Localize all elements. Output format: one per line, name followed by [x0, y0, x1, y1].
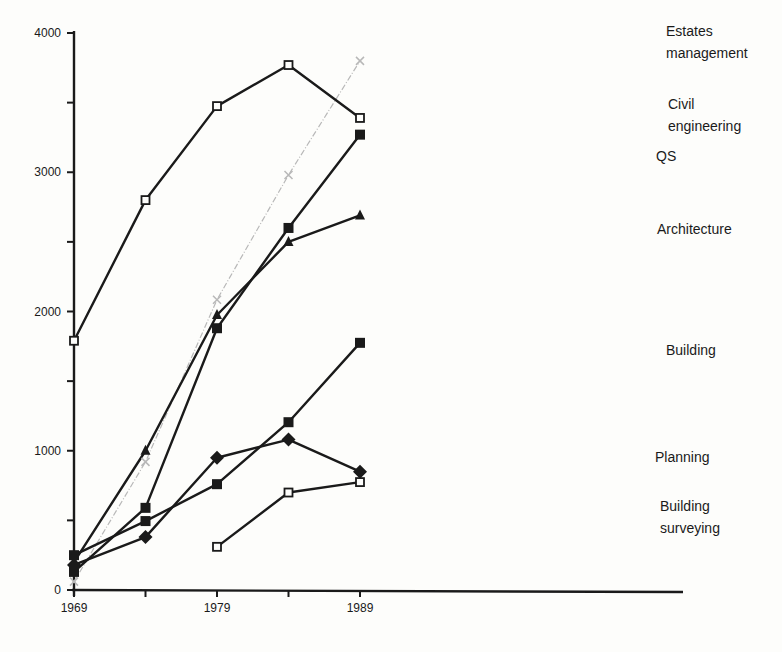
- series-labels: EstatesmanagementCivilengineeringQSArchi…: [655, 23, 748, 536]
- series-label-architecture: Architecture: [657, 221, 732, 237]
- series-label-qs: QS: [656, 148, 676, 164]
- series-label-line: surveying: [660, 520, 720, 536]
- series-label-line: Planning: [655, 449, 710, 465]
- marker-planning: [353, 465, 367, 479]
- marker-planning: [282, 433, 296, 447]
- line-chart: 01000200030004000196919791989 Estatesman…: [0, 0, 782, 652]
- series-label-line: management: [666, 45, 748, 61]
- series-label-estates-management: Estatesmanagement: [666, 23, 748, 61]
- series-label-line: engineering: [668, 118, 741, 134]
- marker-estates-management: [213, 296, 221, 304]
- x-tick-label: 1979: [204, 601, 231, 615]
- series-line-qs: [74, 135, 360, 572]
- marker-qs: [141, 503, 151, 513]
- marker-qs: [284, 223, 294, 233]
- marker-civil-engineering: [285, 61, 293, 69]
- series-label-planning: Planning: [655, 449, 710, 465]
- marker-building: [284, 417, 294, 427]
- y-tick-label: 1000: [34, 444, 61, 458]
- series-label-line: Civil: [668, 96, 694, 112]
- x-axis-line: [72, 590, 683, 592]
- y-tick-label: 0: [54, 583, 61, 597]
- marker-civil-engineering: [142, 196, 150, 204]
- y-tick-label: 4000: [34, 26, 61, 40]
- series-lines: [74, 61, 360, 582]
- series-label-line: Building: [666, 342, 716, 358]
- marker-estates-management: [356, 57, 364, 65]
- marker-qs: [212, 323, 222, 333]
- series-label-building-surveying: Buildingsurveying: [660, 498, 720, 536]
- marker-estates-management: [285, 171, 293, 179]
- marker-building: [355, 338, 365, 348]
- x-tick-label: 1989: [347, 601, 374, 615]
- marker-building: [141, 516, 151, 526]
- series-label-building: Building: [666, 342, 716, 358]
- series-label-line: Architecture: [657, 221, 732, 237]
- series-line-building: [74, 343, 360, 555]
- series-label-line: Estates: [666, 23, 713, 39]
- marker-building-surveying: [213, 543, 221, 551]
- marker-building-surveying: [285, 489, 293, 497]
- series-label-civil-engineering: Civilengineering: [668, 96, 741, 134]
- x-tick-label: 1969: [61, 601, 88, 615]
- series-markers: [67, 57, 367, 586]
- marker-qs: [355, 130, 365, 140]
- marker-estates-management: [142, 458, 150, 466]
- series-label-line: QS: [656, 148, 676, 164]
- marker-civil-engineering: [70, 337, 78, 345]
- y-tick-label: 2000: [34, 305, 61, 319]
- marker-building-surveying: [356, 478, 364, 486]
- marker-civil-engineering: [356, 114, 364, 122]
- y-tick-label: 3000: [34, 165, 61, 179]
- marker-building: [212, 479, 222, 489]
- marker-civil-engineering: [213, 102, 221, 110]
- series-label-line: Building: [660, 498, 710, 514]
- series-line-estates-management: [74, 61, 360, 582]
- marker-architecture: [355, 209, 365, 219]
